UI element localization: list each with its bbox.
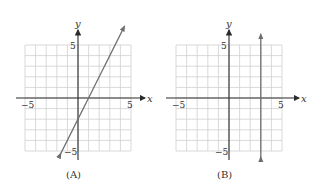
graph-a-x-min-label: −5 [21, 100, 35, 110]
graph-b-y-max-label: 5 [221, 41, 227, 51]
graph-b-y-min-label: −5 [215, 147, 229, 157]
graph-a-x-label: x [147, 93, 153, 104]
graph-b: x y −5 5 5 −5 (B) [166, 18, 307, 180]
graph-a-y-max-label: 5 [70, 41, 76, 51]
graph-b-x-label: x [301, 93, 307, 104]
graph-b-y-label: y [225, 18, 232, 29]
graph-b-x-max-label: 5 [278, 100, 284, 110]
graph-a-caption: (A) [66, 169, 81, 180]
graph-a-y-label: y [74, 18, 81, 29]
graph-a: x y −5 5 5 −5 (A) [16, 18, 153, 180]
graph-b-caption: (B) [217, 169, 232, 180]
graph-a-y-min-label: −5 [64, 147, 78, 157]
figure: x y −5 5 5 −5 (A) x y −5 5 5 −5 (B) [0, 0, 311, 193]
graph-b-x-min-label: −5 [172, 100, 186, 110]
graph-a-x-max-label: 5 [127, 100, 133, 110]
